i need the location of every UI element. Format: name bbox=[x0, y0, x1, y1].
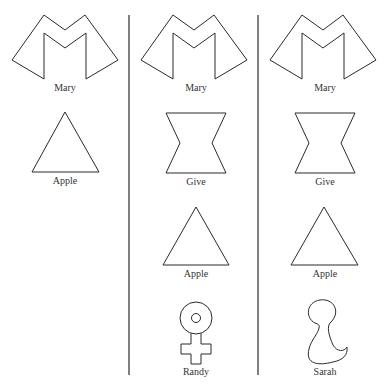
label-apple: Apple bbox=[285, 268, 365, 279]
give-hourglass-icon bbox=[166, 113, 226, 173]
label-mary: Mary bbox=[285, 82, 365, 93]
label-mary: Mary bbox=[25, 82, 105, 93]
apple-triangle-icon bbox=[32, 112, 99, 172]
label-randy: Randy bbox=[156, 366, 236, 377]
give-hourglass-icon bbox=[295, 113, 355, 173]
label-give: Give bbox=[285, 176, 365, 187]
label-mary: Mary bbox=[156, 82, 236, 93]
randy-female-sign-icon bbox=[180, 302, 212, 364]
label-apple: Apple bbox=[25, 175, 105, 186]
label-sarah: Sarah bbox=[285, 366, 365, 377]
mary-m-icon bbox=[270, 15, 376, 79]
label-give: Give bbox=[156, 176, 236, 187]
mary-m-icon bbox=[12, 15, 118, 79]
apple-triangle-icon bbox=[163, 207, 229, 265]
apple-triangle-icon bbox=[291, 207, 358, 265]
mary-m-icon bbox=[141, 15, 247, 79]
symbol-diagram bbox=[0, 0, 390, 390]
label-apple: Apple bbox=[156, 268, 236, 279]
sarah-blob-icon bbox=[308, 300, 347, 364]
